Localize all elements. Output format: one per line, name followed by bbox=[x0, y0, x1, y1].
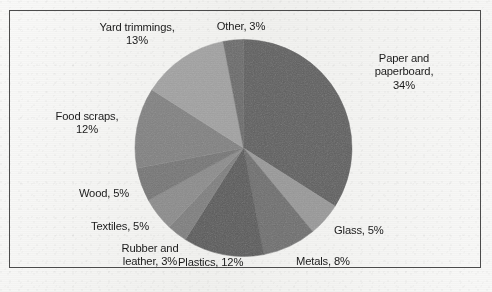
slice-label-glass: Glass, 5% bbox=[334, 224, 434, 237]
slice-label-yard-trimmings: Yard trimmings, 13% bbox=[70, 21, 204, 48]
slice-label-paper-and-paperboard: Paper and paperboard, 34% bbox=[348, 52, 460, 92]
slice-label-other: Other, 3% bbox=[186, 20, 296, 33]
slice-label-food-scraps: Food scraps, 12% bbox=[32, 110, 142, 137]
slice-label-wood: Wood, 5% bbox=[52, 187, 156, 200]
slice-label-textiles: Textiles, 5% bbox=[62, 220, 178, 233]
slice-label-plastics: Plastics, 12% bbox=[178, 256, 288, 269]
pie-chart-screenshot: Yard trimmings, 13% Other, 3% Paper and … bbox=[0, 0, 492, 292]
slice-label-metals: Metals, 8% bbox=[296, 255, 406, 268]
